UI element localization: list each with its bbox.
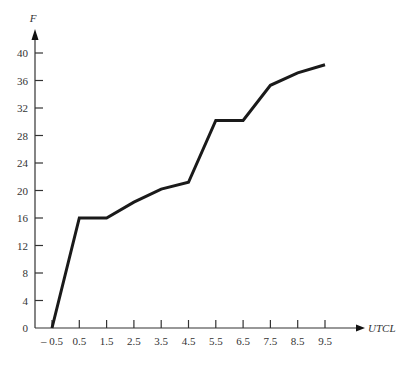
x-tick-label: 1.5 <box>100 335 114 347</box>
y-tick-label: 12 <box>17 240 28 252</box>
x-axis: – 0.50.51.52.53.54.55.56.57.58.59.5 <box>35 320 365 347</box>
x-tick-label: – 0.5 <box>40 335 64 347</box>
line-chart: 0481216202428323640 – 0.50.51.52.53.54.5… <box>0 0 410 368</box>
y-tick-label: 36 <box>17 75 29 87</box>
x-tick-label: 2.5 <box>127 335 141 347</box>
x-tick-label: 8.5 <box>291 335 305 347</box>
x-tick-label: 5.5 <box>209 335 223 347</box>
x-tick-label: 4.5 <box>182 335 196 347</box>
y-axis: 0481216202428323640 <box>17 29 43 334</box>
y-tick-label: 20 <box>17 185 29 197</box>
x-axis-title: UTCL <box>368 322 396 334</box>
y-tick-label: 40 <box>17 47 29 59</box>
y-tick-label: 0 <box>23 322 29 334</box>
x-tick-label: 0.5 <box>72 335 86 347</box>
y-axis-arrow-icon <box>32 29 39 40</box>
data-line <box>52 65 325 328</box>
y-tick-label: 16 <box>17 212 29 224</box>
x-tick-label: 7.5 <box>264 335 278 347</box>
y-tick-label: 28 <box>17 130 29 142</box>
y-tick-label: 4 <box>23 295 29 307</box>
x-axis-arrow-icon <box>356 325 365 332</box>
y-axis-title: F <box>29 12 37 24</box>
x-tick-label: 6.5 <box>236 335 250 347</box>
y-tick-label: 8 <box>23 267 29 279</box>
y-tick-label: 32 <box>17 102 28 114</box>
x-tick-label: 9.5 <box>318 335 332 347</box>
x-tick-label: 3.5 <box>154 335 168 347</box>
y-tick-label: 24 <box>17 157 29 169</box>
